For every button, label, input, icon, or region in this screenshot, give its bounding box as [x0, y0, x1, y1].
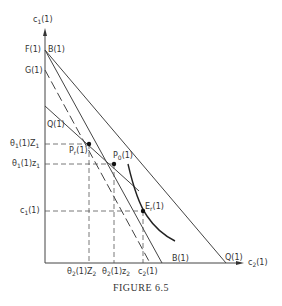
label-Pr: Pr(1) — [69, 146, 88, 157]
label-c1: c1(1) — [20, 206, 40, 217]
label-Q-left: Q(1) — [47, 120, 65, 129]
y-axis-arrow-icon — [43, 28, 47, 36]
label-B-bottom: B(1) — [172, 254, 189, 263]
label-c2: c2(1) — [138, 267, 158, 278]
y-axis-label: c1(1) — [33, 15, 53, 26]
label-F: F(1) — [25, 45, 41, 54]
label-theta2z2: θ2(1)z2 — [102, 267, 130, 278]
label-Er: Er(1) — [145, 202, 164, 213]
line-Q-visible — [45, 106, 139, 191]
label-theta1z1: θ1(1)z1 — [12, 159, 40, 170]
label-Q-bottom: Q(1) — [225, 253, 243, 262]
label-G: G(1) — [25, 66, 43, 75]
label-theta2Z2: θ2(1)Z2 — [67, 267, 96, 278]
label-P0: P0(1) — [113, 151, 133, 162]
dashed-line-G — [45, 70, 150, 263]
x-axis-label: c2(1) — [248, 258, 268, 269]
label-B-top: B(1) — [48, 45, 65, 54]
label-theta1Z1: θ1(1)Z1 — [10, 139, 39, 150]
figure-caption: FIGURE 6.5 — [0, 282, 282, 293]
point-P0 — [112, 162, 116, 166]
